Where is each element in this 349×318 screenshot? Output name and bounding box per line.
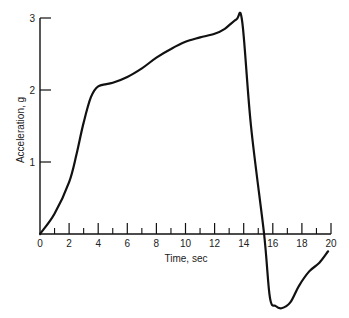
x-tick-label: 10 [180, 238, 192, 249]
y-tick-label: 1 [29, 157, 35, 168]
x-tick-label: 14 [238, 238, 250, 249]
acceleration-time-chart: 123 02468101214161820 Time, sec Accelera… [0, 0, 349, 318]
x-tick-label: 4 [95, 238, 101, 249]
y-axis: 123 [29, 13, 51, 234]
x-tick-label: 0 [37, 238, 43, 249]
x-tick-label: 12 [209, 238, 221, 249]
y-tick-label: 3 [29, 13, 35, 24]
x-tick-label: 8 [154, 238, 160, 249]
x-tick-label: 20 [325, 238, 337, 249]
x-axis-title: Time, sec [165, 253, 208, 264]
x-tick-label: 18 [296, 238, 308, 249]
acceleration-curve [40, 13, 328, 309]
x-tick-label: 2 [66, 238, 72, 249]
x-tick-label: 16 [267, 238, 279, 249]
y-tick-label: 2 [29, 85, 35, 96]
x-axis: 02468101214161820 [37, 223, 337, 249]
x-tick-label: 6 [125, 238, 131, 249]
y-axis-title: Acceleration, g [15, 97, 26, 163]
